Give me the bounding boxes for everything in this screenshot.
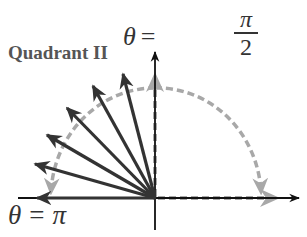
fraction-denominator: 2 bbox=[234, 35, 258, 59]
theta-symbol: θ bbox=[8, 200, 21, 230]
theta-pi-over-2-label: θ= bbox=[123, 22, 160, 52]
quadrant-label: Quadrant II bbox=[8, 42, 108, 64]
theta-symbol: θ bbox=[123, 22, 136, 51]
equals-sign: = bbox=[29, 200, 44, 230]
dashed-arc-quadrant-1 bbox=[155, 88, 261, 192]
fraction-numerator: π bbox=[234, 8, 258, 30]
equals-sign: = bbox=[141, 22, 156, 51]
fraction-pi-over-2: π 2 bbox=[234, 8, 258, 59]
pi-symbol: π bbox=[53, 200, 67, 230]
theta-pi-label: θ=π bbox=[8, 200, 66, 231]
origin-point bbox=[146, 190, 156, 199]
